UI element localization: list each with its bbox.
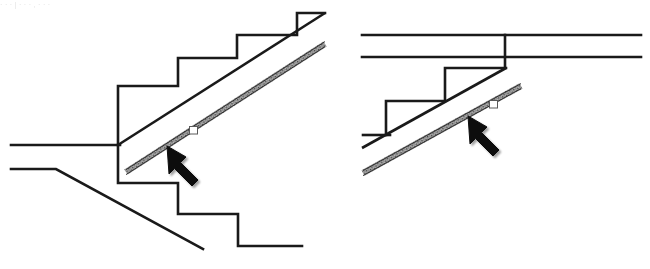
figure-root: · · · | · · · , · · · [0,0,650,269]
right-cursor-square-marker[interactable] [490,101,498,109]
canvas-background [0,0,650,269]
left-cursor-square-marker[interactable] [190,127,198,135]
diagram-canvas [0,0,650,269]
